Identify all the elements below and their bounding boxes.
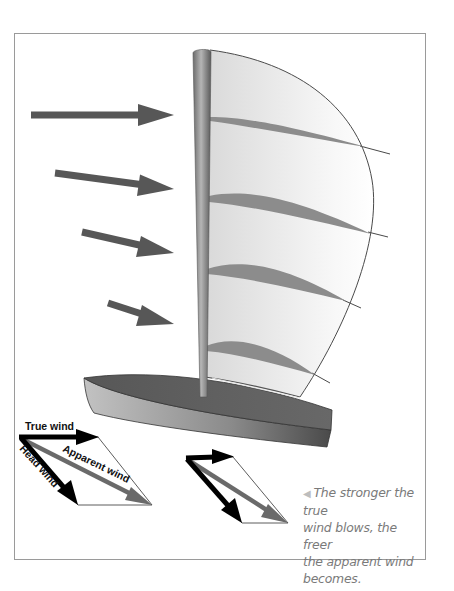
true-wind-label: True wind: [25, 420, 74, 432]
wind-arrow-2: [55, 173, 174, 196]
vector-diagram-1: True wind Apparent wind Head wind: [18, 420, 152, 505]
caption-line-2: wind blows, the freer: [303, 519, 428, 553]
wind-arrow-1: [31, 104, 174, 126]
caption-text-1: The stronger the true: [303, 485, 414, 518]
caption-line-3: the apparent wind: [303, 553, 428, 570]
wind-arrow-4: [108, 303, 174, 326]
caption-marker-icon: ◀: [303, 488, 311, 499]
caption-line-1: ◀The stronger the true: [303, 484, 428, 519]
figure-caption: ◀The stronger the true wind blows, the f…: [303, 484, 428, 587]
wind-arrows: [31, 104, 174, 326]
caption-line-4: becomes.: [303, 570, 428, 587]
vector-diagram-2: [186, 449, 288, 523]
wind-arrow-3: [82, 232, 174, 257]
